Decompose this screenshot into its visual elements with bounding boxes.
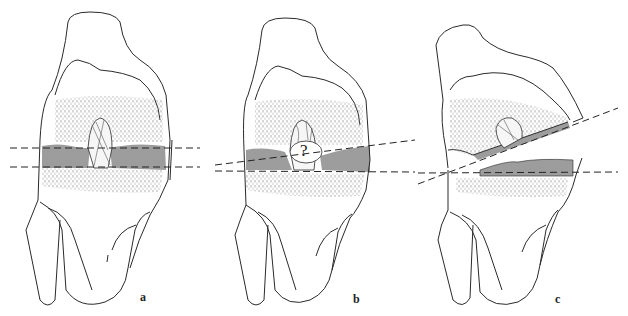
panel-label-a: a xyxy=(140,290,146,305)
panel-label-b: b xyxy=(353,292,360,307)
panel-b: ? b xyxy=(210,0,420,316)
panel-c: c xyxy=(418,0,628,316)
panel-label-c: c xyxy=(555,292,560,307)
knee-joint-figure: a ? b xyxy=(0,0,628,316)
knee-drawing-c xyxy=(418,0,628,316)
knee-drawing-a xyxy=(0,0,210,316)
panel-a: a xyxy=(0,0,210,316)
uncertain-measurement-mark: ? xyxy=(300,141,308,161)
knee-drawing-b xyxy=(210,0,420,316)
